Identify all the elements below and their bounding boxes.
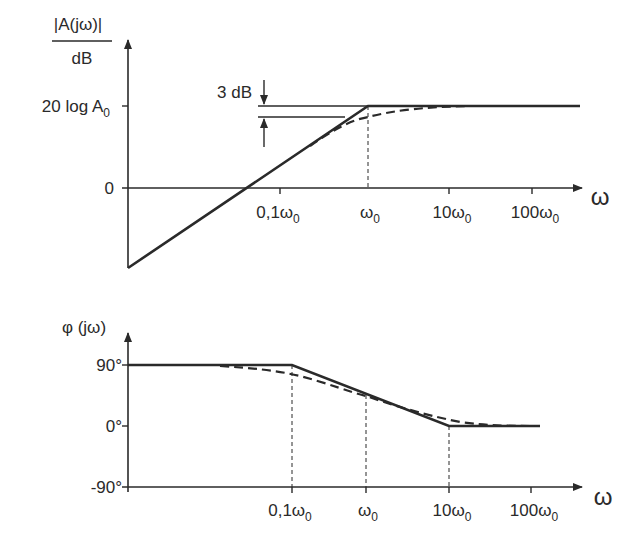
y-tick-90: 90°	[96, 356, 122, 375]
x-tick-10w0: 10ω0	[433, 501, 472, 524]
magnitude-y-label-num: |A(jω)|	[54, 15, 103, 34]
phase-actual	[220, 366, 540, 426]
y-tick-20logA0: 20 log A0	[42, 97, 110, 120]
magnitude-plot: |A(jω)| dB 20 log A0 0 0,1ω0 ω0 10ω0 100…	[42, 15, 610, 268]
x-tick-0.1w0: 0,1ω0	[256, 203, 300, 226]
x-tick-0.1w0: 0,1ω0	[268, 501, 312, 524]
x-tick-w0: ω0	[360, 203, 380, 226]
phase-y-label: φ (jω)	[62, 318, 106, 337]
x-axis-label-omega: ω	[591, 183, 610, 210]
y-tick-minus90: -90°	[91, 478, 122, 497]
y-tick-0: 0	[105, 179, 114, 198]
x-tick-10w0: 10ω0	[433, 203, 472, 226]
phase-plot: φ (jω) 90° 0° -90° 0,1ω0 ω0 10ω0 100ω0 ω	[62, 318, 612, 524]
magnitude-actual	[310, 106, 470, 146]
bode-diagram: |A(jω)| dB 20 log A0 0 0,1ω0 ω0 10ω0 100…	[0, 0, 643, 554]
x-tick-100w0: 100ω0	[511, 203, 560, 226]
phase-asymptote	[128, 365, 540, 426]
magnitude-y-label-den: dB	[72, 49, 93, 68]
x-tick-w0: ω0	[358, 501, 378, 524]
x-tick-100w0: 100ω0	[510, 501, 559, 524]
magnitude-asymptote	[128, 106, 580, 268]
annotation-3db: 3 dB	[217, 83, 252, 102]
y-tick-0deg: 0°	[106, 417, 122, 436]
x-axis-label-omega: ω	[594, 483, 613, 510]
